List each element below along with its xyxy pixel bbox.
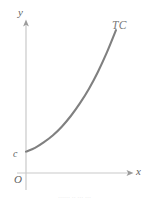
- tc-curve-label: TC: [112, 20, 127, 32]
- y-axis: [23, 20, 29, 191]
- origin-label: O: [14, 174, 22, 185]
- x-axis-label: x: [136, 166, 141, 177]
- figure-container: y x O c TC ······ ·· ··· ···: [0, 0, 149, 202]
- tc-curve: [26, 30, 116, 151]
- figure-caption-partial: ······ ·· ··· ···: [0, 193, 149, 202]
- y-axis-label: y: [18, 7, 23, 18]
- y-intercept-label: c: [13, 149, 17, 159]
- x-axis: [17, 170, 134, 176]
